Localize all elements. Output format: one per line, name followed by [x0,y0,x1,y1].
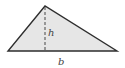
height-label: h [48,27,54,38]
base-label: b [58,56,64,67]
triangle-diagram: h b [0,0,125,68]
triangle-shape [8,6,117,51]
